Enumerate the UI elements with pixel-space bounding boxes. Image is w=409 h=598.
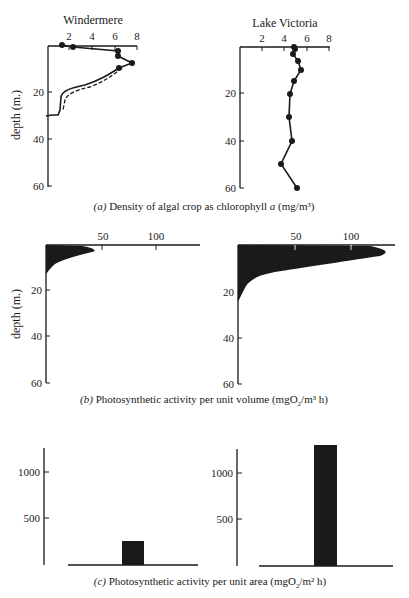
chart-a-windermere: Windermere 2 4 6 8 20 40 60 depth (m.) (9, 13, 140, 192)
x-tick: 50 (98, 230, 110, 242)
y-tick: 60 (31, 377, 43, 389)
y-tick: 20 (31, 284, 43, 296)
chart-b-lake-victoria: 50 100 20 40 60 (223, 230, 395, 390)
x-tick: 100 (343, 230, 360, 242)
y-tick: 1000 (18, 466, 41, 478)
x-tick: 50 (291, 230, 303, 242)
y-tick: 20 (225, 87, 237, 99)
y-tick: 20 (223, 286, 235, 298)
x-tick: 2 (66, 30, 72, 42)
y-tick: 40 (31, 330, 43, 342)
caption-c: (c) Photosynthetic activity per unit are… (94, 575, 327, 590)
bar (122, 541, 144, 565)
caption-b: (b) Photosynthetic activity per unit vol… (80, 393, 328, 408)
x-tick: 8 (134, 30, 140, 42)
chart-title: Lake Victoria (252, 16, 318, 30)
y-tick: 60 (33, 180, 45, 192)
y-tick: 500 (24, 512, 41, 524)
chart-c-windermere: 1000 500 (18, 448, 198, 565)
x-tick: 6 (304, 32, 310, 44)
x-tick: 8 (326, 32, 332, 44)
y-axis-label: depth (m.) (9, 90, 23, 140)
x-tick: 6 (112, 30, 118, 42)
bar (314, 445, 337, 566)
chart-c-lake-victoria: 1000 500 (211, 445, 393, 566)
x-tick: 4 (281, 32, 287, 44)
y-tick: 500 (217, 513, 234, 525)
y-tick: 20 (33, 86, 45, 98)
chart-a-lake-victoria: Lake Victoria 2 4 6 8 20 40 60 (225, 16, 332, 194)
x-tick: 100 (148, 230, 165, 242)
y-tick: 40 (225, 135, 237, 147)
figure: Windermere 2 4 6 8 20 40 60 depth (m.) L… (0, 0, 409, 598)
x-tick: 2 (259, 32, 265, 44)
chart-title: Windermere (63, 13, 122, 27)
caption-a: (a) Density of algal crop as chlorophyll… (94, 200, 315, 213)
y-axis-label: depth (m.) (9, 289, 23, 339)
chart-b-windermere: 50 100 20 40 60 depth (m.) (9, 230, 200, 389)
y-tick: 40 (33, 133, 45, 145)
y-tick: 1000 (211, 467, 234, 479)
x-tick: 4 (89, 30, 95, 42)
y-tick: 40 (223, 332, 235, 344)
y-tick: 60 (223, 378, 235, 390)
y-tick: 60 (225, 182, 237, 194)
